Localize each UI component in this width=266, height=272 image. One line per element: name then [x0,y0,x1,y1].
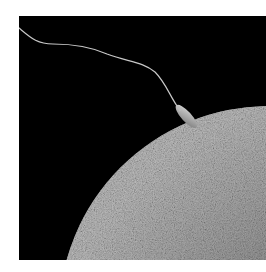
micrograph-image [19,16,266,260]
egg-cell [59,106,266,260]
sperm-tail [19,28,177,106]
micrograph-panel [19,16,266,260]
